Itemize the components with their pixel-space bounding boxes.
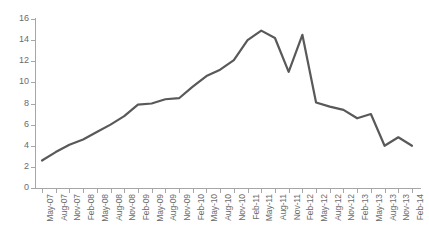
x-tick-mark	[248, 189, 249, 193]
line-chart: 0246810121416 May-07Aug-07Nov-07Feb-08Ma…	[0, 0, 429, 244]
x-tick-mark	[261, 189, 262, 193]
x-tick-label: Feb-11	[252, 194, 261, 220]
x-tick-label: Nov-08	[128, 194, 137, 221]
y-tick-mark	[31, 40, 35, 41]
x-tick-label: Aug-12	[334, 194, 343, 221]
series-polyline	[42, 31, 412, 161]
x-tick-mark	[56, 189, 57, 193]
x-tick-label: May-08	[101, 194, 110, 222]
x-tick-mark	[302, 189, 303, 193]
x-tick-mark	[234, 189, 235, 193]
x-tick-label: May-11	[265, 194, 274, 221]
x-tick-label: May-09	[156, 194, 165, 222]
x-tick-label: Nov-11	[293, 194, 302, 220]
x-tick-mark	[316, 189, 317, 193]
x-tick-mark	[206, 189, 207, 193]
x-tick-label: Nov-10	[238, 194, 247, 221]
x-tick-mark	[165, 189, 166, 193]
x-tick-label: Aug-11	[279, 194, 288, 220]
x-tick-label: Aug-08	[115, 194, 124, 221]
x-tick-mark	[124, 189, 125, 193]
y-tick-mark	[31, 104, 35, 105]
x-tick-mark	[193, 189, 194, 193]
x-tick-label: Aug-09	[169, 194, 178, 221]
x-tick-label: Aug-13	[389, 194, 398, 221]
x-tick-label: Feb-14	[416, 194, 425, 220]
y-tick-mark	[31, 146, 35, 147]
x-tick-mark	[69, 189, 70, 193]
x-tick-label: Aug-07	[60, 194, 69, 221]
x-tick-mark	[412, 189, 413, 193]
x-tick-mark	[138, 189, 139, 193]
y-tick-mark	[31, 19, 35, 20]
x-tick-label: Feb-09	[142, 194, 151, 220]
x-tick-mark	[357, 189, 358, 193]
x-tick-label: Feb-12	[306, 194, 315, 220]
x-tick-mark	[330, 189, 331, 193]
x-tick-mark	[152, 189, 153, 193]
x-tick-label: Nov-07	[73, 194, 82, 221]
x-tick-label: Feb-08	[87, 194, 96, 220]
y-tick-mark	[31, 61, 35, 62]
x-tick-label: Nov-09	[183, 194, 192, 221]
x-tick-mark	[398, 189, 399, 193]
x-tick-label: May-12	[320, 194, 329, 222]
x-tick-mark	[179, 189, 180, 193]
x-tick-label: Nov-13	[402, 194, 411, 221]
x-tick-mark	[83, 189, 84, 193]
x-tick-mark	[343, 189, 344, 193]
x-tick-mark	[371, 189, 372, 193]
x-tick-label: May-10	[210, 194, 219, 222]
x-tick-mark	[111, 189, 112, 193]
x-tick-label: Feb-13	[361, 194, 370, 220]
series-line	[36, 19, 420, 188]
x-tick-label: Feb-10	[197, 194, 206, 220]
x-tick-label: May-13	[375, 194, 384, 222]
y-tick-mark	[31, 188, 35, 189]
x-tick-mark	[289, 189, 290, 193]
x-tick-mark	[97, 189, 98, 193]
x-tick-label: Nov-12	[347, 194, 356, 221]
x-tick-mark	[220, 189, 221, 193]
x-tick-mark	[385, 189, 386, 193]
y-tick-mark	[31, 125, 35, 126]
x-tick-mark	[42, 189, 43, 193]
y-tick-mark	[31, 167, 35, 168]
x-tick-label: May-07	[46, 194, 55, 222]
x-tick-mark	[275, 189, 276, 193]
plot-area	[36, 19, 420, 188]
y-tick-mark	[31, 82, 35, 83]
x-tick-label: Aug-10	[224, 194, 233, 221]
